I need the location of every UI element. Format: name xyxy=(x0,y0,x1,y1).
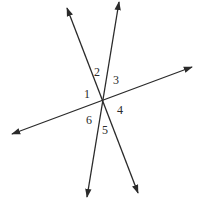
angle-label-6: 6 xyxy=(86,114,92,126)
angle-label-1: 1 xyxy=(84,88,90,100)
angle-label-2: 2 xyxy=(94,66,100,78)
lines-svg xyxy=(0,0,197,199)
angle-label-4: 4 xyxy=(117,104,123,116)
intersecting-lines-diagram: 1 2 3 4 5 6 xyxy=(0,0,197,199)
angle-label-5: 5 xyxy=(102,124,108,136)
angle-label-3: 3 xyxy=(113,74,119,86)
